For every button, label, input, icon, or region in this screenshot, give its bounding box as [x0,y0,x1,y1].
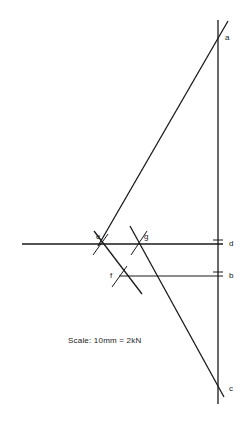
vertex-label-b: b [229,272,233,280]
diagram-drawing [0,0,247,421]
line-layer [22,20,228,404]
scale-note: Scale: 10mm = 2kN [68,337,141,345]
ray-g-c [130,226,224,397]
vertex-label-e: e [96,233,100,241]
vertex-label-d: d [229,240,233,248]
vertex-label-f: f [110,272,112,280]
vertex-label-c: c [229,385,233,393]
force-diagram-canvas: a e g d f b c Scale: 10mm = 2kN [0,0,247,421]
ray-e-a [98,21,228,246]
vertex-label-g: g [144,233,148,241]
ray-e-f-extended [94,231,142,294]
vertex-label-a: a [225,34,229,42]
